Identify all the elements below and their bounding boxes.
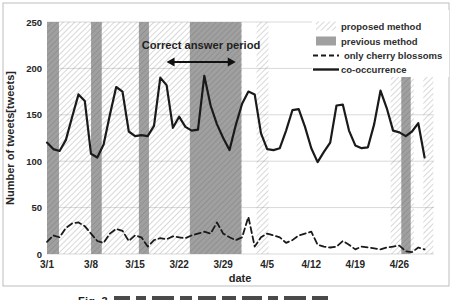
legend-swatch-previous-method — [316, 37, 336, 46]
legend-label-proposed-method: proposed method — [341, 21, 421, 32]
x-tick-label-4-12: 4/12 — [302, 259, 322, 270]
x-tick-label-4-19: 4/19 — [346, 259, 366, 270]
x-tick-label-4-26: 4/26 — [390, 259, 410, 270]
figure-caption: Fig. 3 — [78, 291, 448, 300]
correct-answer-period-label: Correct answer period — [142, 39, 261, 51]
proposed-method-region — [47, 22, 242, 254]
tweet-count-chart: 3/13/83/153/223/294/54/124/194/26 050100… — [0, 0, 454, 300]
x-tick-label-3-8: 3/8 — [84, 259, 98, 270]
x-axis-tick-labels: 3/13/83/153/223/294/54/124/194/26 — [40, 259, 410, 270]
legend-label-previous-method: previous method — [341, 36, 418, 47]
x-axis-title: date — [229, 272, 252, 284]
y-axis-tick-labels: 050100150200250 — [26, 17, 42, 260]
y-tick-label-250: 250 — [26, 17, 42, 28]
figure-caption-number: Fig. 3 — [78, 295, 108, 300]
y-axis-title: Number of tweets[tweets] — [4, 71, 16, 205]
y-tick-label-200: 200 — [26, 63, 42, 74]
legend: proposed method previous method only che… — [312, 10, 449, 77]
x-tick-label-4-5: 4/5 — [260, 259, 274, 270]
x-tick-label-3-15: 3/15 — [125, 259, 145, 270]
legend-swatch-proposed-method — [316, 22, 336, 31]
y-tick-label-0: 0 — [37, 249, 42, 260]
y-tick-label-50: 50 — [31, 202, 42, 213]
legend-label-co-occurrence: co-occurrence — [341, 64, 406, 75]
legend-label-only-cherry-blossoms: only cherry blossoms — [344, 50, 442, 61]
x-tick-label-3-29: 3/29 — [213, 259, 233, 270]
figure-3: 3/13/83/153/223/294/54/124/194/26 050100… — [0, 0, 454, 300]
y-tick-label-100: 100 — [26, 156, 42, 167]
x-tick-label-3-1: 3/1 — [40, 259, 54, 270]
y-tick-label-150: 150 — [26, 109, 42, 120]
x-tick-label-3-22: 3/22 — [169, 259, 189, 270]
